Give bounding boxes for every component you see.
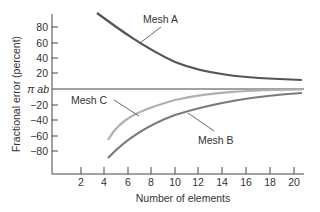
y-tick-80: 80 <box>36 21 48 33</box>
x-tick-14: 14 <box>216 176 228 188</box>
x-tick-16: 16 <box>240 176 252 188</box>
y-tick-neg20: −20 <box>30 99 48 111</box>
x-tick-labels: 2 4 6 8 10 12 14 16 18 20 <box>78 176 300 188</box>
x-tick-10: 10 <box>169 176 181 188</box>
y-tick-neg60: −60 <box>30 130 48 142</box>
leader-mesh-b <box>188 113 214 131</box>
leader-mesh-a <box>140 27 161 43</box>
x-tick-8: 8 <box>148 176 154 188</box>
y-tick-pi-ab: π ab <box>27 83 49 95</box>
x-tick-6: 6 <box>125 176 131 188</box>
x-tick-4: 4 <box>101 176 107 188</box>
y-tick-20: 20 <box>36 67 48 79</box>
series-mesh-b <box>108 93 302 158</box>
label-mesh-b: Mesh B <box>198 134 234 146</box>
chart: 80 60 40 20 π ab −20 −40 −60 −80 2 4 6 8… <box>0 0 320 212</box>
y-tick-neg40: −40 <box>30 114 48 126</box>
label-mesh-c: Mesh C <box>71 94 108 106</box>
x-tick-12: 12 <box>192 176 204 188</box>
label-mesh-a: Mesh A <box>143 13 178 25</box>
y-tick-neg80: −80 <box>30 145 48 157</box>
x-tick-20: 20 <box>288 176 300 188</box>
y-tick-40: 40 <box>36 52 48 64</box>
y-tick-60: 60 <box>36 37 48 49</box>
y-tick-labels: 80 60 40 20 π ab −20 −40 −60 −80 <box>27 21 49 157</box>
x-tick-18: 18 <box>264 176 276 188</box>
x-ticks <box>81 167 294 174</box>
leader-mesh-c <box>114 100 139 116</box>
y-axis-title: Fractional error (percent) <box>10 36 22 152</box>
x-axis-title: Number of elements <box>136 192 231 204</box>
series-mesh-a <box>97 13 302 80</box>
x-tick-2: 2 <box>78 176 84 188</box>
